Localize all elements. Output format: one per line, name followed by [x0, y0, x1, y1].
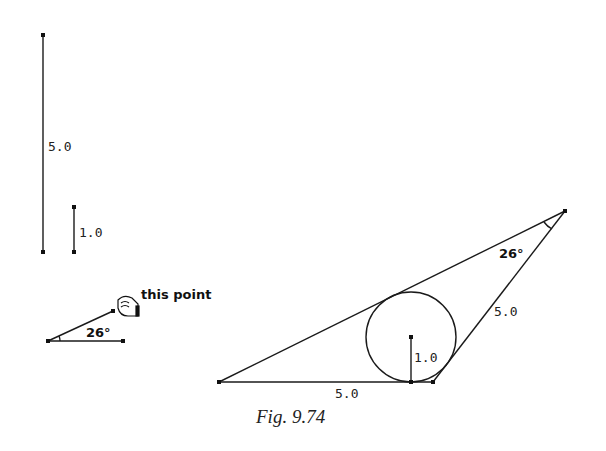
endpoint[interactable]: [111, 309, 115, 313]
figure-caption: Fig. 9.74: [255, 406, 326, 427]
endpoint[interactable]: [217, 380, 221, 384]
endpoint[interactable]: [409, 335, 413, 339]
endpoint[interactable]: [431, 380, 435, 384]
apex-angle-label: 26°: [499, 246, 524, 261]
endpoint[interactable]: [409, 380, 413, 384]
endpoint[interactable]: [72, 250, 76, 254]
hand-pointer-icon: [118, 296, 139, 316]
endpoint[interactable]: [41, 250, 45, 254]
short-segment-label: 1.0: [79, 225, 102, 240]
pointer-label: this point: [141, 287, 211, 302]
apex-angle-arc: [544, 222, 552, 229]
endpoint[interactable]: [563, 209, 567, 213]
endpoint[interactable]: [72, 205, 76, 209]
endpoint[interactable]: [46, 339, 50, 343]
endpoint[interactable]: [41, 33, 45, 37]
given-angle-label: 26°: [86, 325, 111, 340]
endpoint[interactable]: [121, 339, 125, 343]
radius-label: 1.0: [414, 350, 437, 365]
side-label: 5.0: [494, 304, 517, 319]
triangle-right-side: [433, 211, 565, 382]
base-label: 5.0: [335, 386, 358, 401]
geometry-figure: 5.0 1.0 26° this point 26° 5.0 5.0 1.0 F…: [0, 0, 606, 451]
angle-arc-small: [59, 336, 60, 341]
long-segment-label: 5.0: [48, 139, 71, 154]
